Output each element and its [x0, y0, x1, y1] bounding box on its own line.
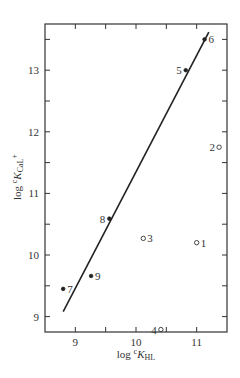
filled-circle-marker-icon [89, 274, 93, 278]
open-circle-marker-icon [159, 327, 163, 331]
data-point-9: 9 [89, 270, 101, 282]
data-points: 123456789 [61, 33, 221, 335]
filled-circle-marker-icon [184, 68, 188, 72]
point-label: 3 [147, 232, 153, 244]
point-label: 1 [201, 237, 207, 249]
y-axis-label-sub: CaL [16, 158, 25, 172]
point-label: 2 [210, 141, 216, 153]
tick-labels: 91011910111213 [28, 64, 202, 348]
filled-circle-marker-icon [203, 38, 207, 42]
x-axis-label: log cKHL [117, 347, 155, 362]
point-label: 4 [151, 324, 157, 336]
data-point-7: 7 [61, 283, 73, 295]
data-point-3: 3 [141, 232, 153, 244]
data-point-1: 1 [194, 237, 206, 249]
filled-circle-marker-icon [108, 217, 112, 221]
open-circle-marker-icon [194, 240, 198, 244]
y-axis-label-prefix: log [11, 183, 23, 200]
data-point-6: 6 [203, 33, 215, 45]
y-tick-label: 10 [28, 249, 40, 261]
data-point-2: 2 [210, 141, 222, 153]
point-label: 7 [67, 283, 73, 295]
x-axis-label-sub: HL [145, 353, 156, 362]
y-tick-label: 9 [34, 311, 40, 323]
x-axis-label-prefix: log [117, 348, 134, 360]
open-circle-marker-icon [141, 236, 145, 240]
y-tick-label: 13 [28, 64, 40, 76]
point-label: 8 [100, 213, 106, 225]
data-point-4: 4 [151, 324, 163, 336]
x-tick-label: 11 [191, 336, 202, 348]
scatter-chart: 91011910111213 123456789 log cKHL log cK… [0, 0, 240, 378]
point-label: 9 [95, 270, 101, 282]
filled-circle-marker-icon [61, 287, 65, 291]
open-circle-marker-icon [217, 145, 221, 149]
y-tick-label: 12 [28, 126, 39, 138]
y-axis-label: log cKCaL+ [10, 154, 25, 201]
y-tick-label: 11 [28, 187, 39, 199]
point-label: 6 [209, 33, 215, 45]
x-tick-label: 9 [73, 336, 79, 348]
fit-line [63, 32, 209, 312]
y-axis-label-suffix: + [10, 154, 19, 159]
point-label: 5 [176, 64, 182, 76]
